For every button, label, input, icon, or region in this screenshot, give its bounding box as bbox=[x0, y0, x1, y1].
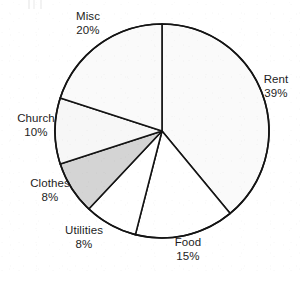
pie-label-misc-percent: 20% bbox=[52, 24, 124, 38]
pie-label-misc: Misc 20% bbox=[52, 10, 124, 37]
expenses-pie-chart bbox=[0, 0, 302, 283]
pie-label-food-percent: 15% bbox=[158, 250, 218, 264]
pie-label-clothes-percent: 8% bbox=[15, 191, 85, 205]
pie-label-utilities-percent: 8% bbox=[48, 238, 120, 252]
pie-label-church: Church 10% bbox=[2, 112, 70, 139]
pie-label-church-name: Church bbox=[2, 112, 70, 126]
pie-label-utilities-name: Utilities bbox=[48, 224, 120, 238]
pie-label-food-name: Food bbox=[158, 236, 218, 250]
pie-label-rent-name: Rent bbox=[252, 73, 300, 87]
pie-chart-page: Misc 20% Rent 39% Church 10% Clothes 8% … bbox=[0, 0, 302, 283]
pie-label-church-percent: 10% bbox=[2, 126, 70, 140]
pie-label-misc-name: Misc bbox=[52, 10, 124, 24]
pie-label-clothes: Clothes 8% bbox=[15, 177, 85, 204]
pie-slice-group bbox=[55, 24, 269, 238]
pie-label-rent-percent: 39% bbox=[252, 87, 300, 101]
pie-label-utilities: Utilities 8% bbox=[48, 224, 120, 251]
pie-label-clothes-name: Clothes bbox=[15, 177, 85, 191]
pie-label-food: Food 15% bbox=[158, 236, 218, 263]
pie-label-rent: Rent 39% bbox=[252, 73, 300, 100]
